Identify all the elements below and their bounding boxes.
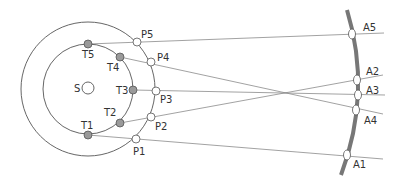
label-a3: A3	[366, 85, 379, 96]
point-t1	[84, 131, 92, 139]
label-a2: A2	[366, 66, 379, 77]
label-p3: P3	[160, 94, 172, 105]
point-t3	[129, 86, 137, 94]
label-a4: A4	[364, 115, 377, 126]
point-p2	[147, 113, 155, 121]
point-p5	[133, 38, 141, 46]
point-a2	[354, 75, 361, 85]
label-t1: T1	[80, 120, 93, 131]
point-a1	[344, 150, 351, 160]
label-t4: T4	[106, 62, 119, 73]
point-p4	[147, 58, 155, 66]
label-p4: P4	[157, 52, 169, 63]
point-a3	[355, 90, 362, 100]
point-t4	[116, 53, 124, 61]
label-a1: A1	[353, 159, 366, 170]
sun-label: S	[74, 83, 80, 94]
sight-line-4	[120, 57, 383, 114]
point-t5	[84, 40, 92, 48]
label-t3: T3	[115, 85, 128, 96]
label-p1: P1	[133, 146, 145, 157]
label-a5: A5	[363, 22, 376, 33]
point-t2	[116, 119, 124, 127]
point-p3	[152, 87, 160, 95]
point-a4	[353, 105, 360, 115]
label-t5: T5	[81, 49, 94, 60]
label-t2: T2	[103, 107, 116, 118]
sun-icon	[82, 82, 94, 94]
label-p2: P2	[155, 121, 167, 132]
label-p5: P5	[141, 29, 153, 40]
point-a5	[349, 29, 356, 39]
retrograde-motion-diagram: S T1 T2 T3 T4 T5 P1 P2 P3 P4 P5	[0, 0, 403, 185]
point-p1	[132, 135, 140, 143]
